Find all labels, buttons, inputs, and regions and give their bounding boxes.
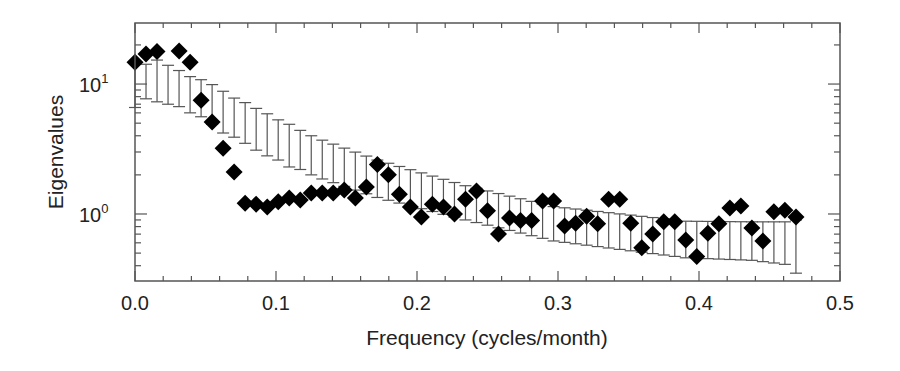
data-point-diamond	[754, 232, 771, 249]
data-point-diamond	[666, 213, 683, 230]
x-tick-label: 0.2	[403, 292, 431, 314]
data-point-diamond	[644, 226, 661, 243]
data-point-diamond	[193, 92, 210, 109]
x-tick-labels: 0.00.10.20.30.40.5	[121, 292, 854, 314]
data-point-diamond	[402, 199, 419, 216]
data-point-diamond	[479, 202, 496, 219]
data-point-diamond	[611, 191, 628, 208]
data-point-diamond	[688, 248, 705, 265]
plot-frame	[135, 23, 840, 281]
y-axis-ticks	[135, 45, 840, 266]
data-point-diamond	[622, 215, 639, 232]
data-point-diamond	[699, 225, 716, 242]
error-bars	[129, 60, 802, 273]
x-axis-ticks	[135, 23, 840, 281]
x-tick-label: 0.0	[121, 292, 149, 314]
y-tick-label: 100	[79, 201, 108, 226]
x-tick-label: 0.5	[826, 292, 854, 314]
data-points	[127, 42, 805, 265]
data-point-diamond	[171, 42, 188, 59]
y-tick-label: 101	[79, 71, 108, 96]
data-point-diamond	[380, 166, 397, 183]
y-axis-title: Eigenvalues	[44, 95, 67, 209]
data-point-diamond	[710, 215, 727, 232]
data-point-diamond	[182, 54, 199, 71]
data-point-diamond	[358, 179, 375, 196]
x-axis-title: Frequency (cycles/month)	[366, 326, 608, 349]
data-point-diamond	[523, 212, 540, 229]
data-point-diamond	[369, 156, 386, 173]
eigenvalue-spectrum-chart: 0.00.10.20.30.40.5 100101 Frequency (cyc…	[0, 0, 900, 371]
x-tick-label: 0.1	[262, 292, 290, 314]
x-tick-label: 0.3	[544, 292, 572, 314]
y-tick-labels: 100101	[79, 71, 108, 226]
x-tick-label: 0.4	[685, 292, 713, 314]
data-point-diamond	[226, 164, 243, 181]
data-point-diamond	[732, 198, 749, 215]
data-point-diamond	[215, 140, 232, 157]
data-point-diamond	[677, 232, 694, 249]
data-point-diamond	[204, 114, 221, 131]
